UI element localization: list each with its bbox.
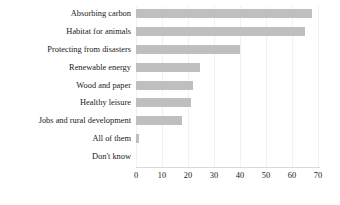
bar-row <box>136 95 320 111</box>
x-tick-label: 70 <box>314 170 322 182</box>
plot-area <box>136 6 320 167</box>
bar-row <box>136 24 320 40</box>
bar <box>136 81 193 90</box>
category-label: Habitat for animals <box>0 24 131 40</box>
x-tick-label: 0 <box>134 170 138 182</box>
category-label: Don't know <box>0 149 131 165</box>
bar <box>136 98 191 107</box>
category-label: Wood and paper <box>0 78 131 94</box>
bar <box>136 116 182 125</box>
bar-row <box>136 131 320 147</box>
bar-series <box>136 6 320 167</box>
bar <box>136 63 200 72</box>
bar-row <box>136 42 320 58</box>
x-axis-line <box>136 167 320 168</box>
category-label: Healthy leisure <box>0 95 131 111</box>
bar <box>136 45 240 54</box>
bar-row <box>136 149 320 165</box>
x-tick-label: 10 <box>158 170 166 182</box>
bar-row <box>136 60 320 76</box>
x-axis-tick-labels: 010203040506070 <box>136 170 320 184</box>
category-axis-labels: Absorbing carbonHabitat for animalsProte… <box>0 6 131 167</box>
x-tick-label: 60 <box>288 170 296 182</box>
bar <box>136 9 312 18</box>
category-label: Jobs and rural development <box>0 113 131 129</box>
x-tick-label: 20 <box>184 170 192 182</box>
bar <box>136 134 139 143</box>
bar-row <box>136 78 320 94</box>
horizontal-bar-chart: Absorbing carbonHabitat for animalsProte… <box>0 0 340 205</box>
category-label: Protecting from disasters <box>0 42 131 58</box>
category-label: All of them <box>0 131 131 147</box>
x-tick-label: 30 <box>210 170 218 182</box>
category-label: Absorbing carbon <box>0 6 131 22</box>
category-label: Renewable energy <box>0 60 131 76</box>
bar <box>136 27 305 36</box>
x-tick-label: 40 <box>236 170 244 182</box>
bar-row <box>136 113 320 129</box>
x-tick-label: 50 <box>262 170 270 182</box>
bar-row <box>136 6 320 22</box>
